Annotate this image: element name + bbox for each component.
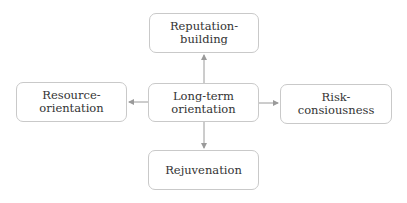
node-label: orientation [171,103,235,116]
node-risk-consciousness: Risk-consiousness [280,84,392,124]
node-label: consiousness [298,104,375,117]
node-rejuvenation: Rejuvenation [148,150,259,190]
node-label: building [170,33,238,46]
node-resource-orientation: Resource-orientation [16,82,127,122]
node-long-term-orientation: Long-termorientation [148,83,259,122]
node-label: Rejuvenation [165,164,242,177]
node-reputation-building: Reputation-building [149,13,259,53]
node-label: Long-term [171,90,235,103]
node-label: orientation [39,102,103,115]
